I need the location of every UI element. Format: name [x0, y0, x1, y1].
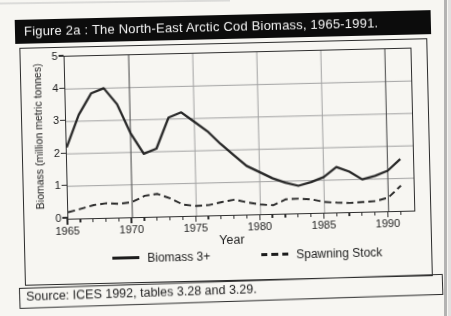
- y-tick-label-4: 4: [42, 82, 58, 95]
- x-tick-mark-1972: [156, 217, 157, 220]
- legend-item-spawning: Spawning Stock: [261, 244, 382, 262]
- x-tick-mark-1969: [118, 218, 119, 221]
- figure-title: Figure 2a : The North-East Arctic Cod Bi…: [24, 15, 379, 38]
- x-tick-mark-1978: [233, 215, 234, 218]
- v-gridline-1975: [193, 54, 197, 216]
- spawning-stock-line: [68, 186, 402, 213]
- x-tick-mark-1983: [297, 214, 298, 217]
- x-tick-label-1985: 1985: [306, 218, 342, 231]
- x-tick-mark-1984: [310, 213, 311, 216]
- x-tick-mark-1971: [144, 217, 145, 220]
- x-tick-mark-1987: [349, 212, 350, 215]
- v-gridline-1980: [257, 52, 261, 214]
- v-gridline-1990: [385, 49, 389, 211]
- x-tick-mark-1991: [400, 211, 401, 214]
- scanned-page: { "title_bar": { "text": "Figure 2a : Th…: [0, 0, 451, 316]
- y-tick-mark-5: [58, 55, 64, 56]
- legend-label-biomass: Biomass 3+: [147, 249, 210, 264]
- y-tick-label-3: 3: [43, 114, 59, 127]
- h-gridline-4: [65, 81, 411, 89]
- x-tick-label-1990: 1990: [370, 217, 406, 230]
- x-axis-label: Year: [212, 232, 252, 247]
- x-tick-mark-1982: [285, 214, 286, 217]
- x-tick-label-1980: 1980: [242, 220, 278, 233]
- y-tick-label-5: 5: [41, 49, 57, 62]
- x-tick-mark-1977: [221, 215, 222, 218]
- x-tick-label-1965: 1965: [50, 224, 86, 237]
- x-tick-mark-1989: [374, 212, 375, 215]
- x-tick-mark-1968: [105, 218, 106, 221]
- x-tick-mark-1988: [361, 212, 362, 215]
- y-tick-label-1: 1: [44, 179, 60, 192]
- v-gridline-1985: [321, 51, 325, 213]
- legend-line-sample-dashed: [261, 253, 288, 256]
- x-tick-mark-1981: [272, 214, 273, 217]
- x-tick-mark-1966: [80, 219, 81, 222]
- x-tick-mark-1979: [246, 215, 247, 218]
- legend-line-sample-solid: [112, 256, 139, 259]
- x-tick-label-1975: 1975: [178, 221, 214, 234]
- x-tick-mark-1986: [336, 213, 337, 216]
- chart-canvas: [65, 49, 415, 219]
- y-tick-label-0: 0: [45, 211, 61, 224]
- legend-label-spawning: Spawning Stock: [296, 245, 382, 261]
- y-tick-mark-3: [60, 120, 66, 121]
- scan-edge-highlight: [448, 0, 451, 316]
- h-gridline-2: [67, 146, 413, 154]
- y-tick-label-2: 2: [44, 147, 60, 160]
- plot-area: [64, 48, 416, 220]
- figure-container: Figure 2a : The North-East Arctic Cod Bi…: [0, 0, 451, 316]
- y-tick-mark-2: [60, 152, 66, 153]
- x-tick-label-1970: 1970: [114, 223, 150, 236]
- source-text: Source: ICES 1992, tables 3.28 and 3.29.: [26, 282, 257, 304]
- y-tick-mark-4: [59, 88, 65, 89]
- x-tick-mark-1967: [92, 219, 93, 222]
- x-tick-mark-1973: [169, 217, 170, 220]
- legend-item-biomass: Biomass 3+: [112, 248, 210, 265]
- biomass-line: [65, 81, 401, 191]
- h-gridline-3: [66, 113, 412, 121]
- scan-edge-shadow: [444, 0, 447, 316]
- x-tick-mark-1974: [182, 216, 183, 219]
- x-tick-mark-1976: [208, 216, 209, 219]
- y-tick-mark-1: [61, 185, 67, 186]
